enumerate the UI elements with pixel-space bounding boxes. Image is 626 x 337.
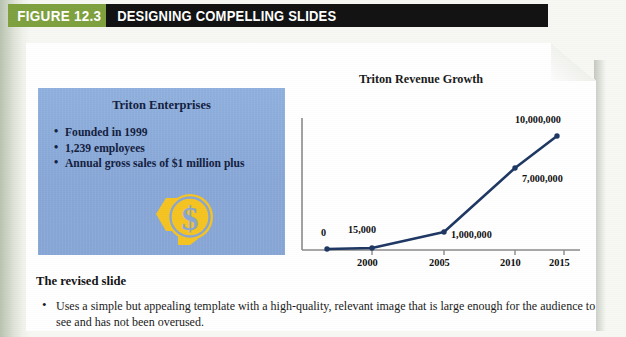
data-label-15000: 15,000	[348, 224, 376, 235]
chart-plot-area	[296, 72, 584, 268]
dollar-coin-icon: $	[152, 181, 224, 253]
presentation-slide: Triton Enterprises Founded in 1999 1,239…	[38, 88, 285, 255]
slide-bullet-list: Founded in 1999 1,239 employees Annual g…	[54, 125, 245, 172]
data-label-0: 0	[321, 227, 326, 238]
caption-heading: The revised slide	[36, 274, 596, 289]
x-tick-label-2015: 2015	[549, 257, 570, 268]
data-point	[369, 245, 374, 250]
caption-bullet-list: Uses a simple but appealing template wit…	[36, 298, 596, 330]
slide-bullet-item: Annual gross sales of $1 million plus	[54, 156, 245, 172]
slide-bullet-item: 1,239 employees	[54, 141, 245, 157]
revenue-line-chart: Triton Revenue Growth 0 15,000 1,000,000…	[296, 72, 584, 268]
figure-title: DESIGNING COMPELLING SLIDES	[106, 4, 365, 27]
figure-header: FIGURE 12.3 DESIGNING COMPELLING SLIDES	[8, 4, 384, 27]
data-point	[441, 229, 446, 234]
figure-number-label: FIGURE 12.3	[8, 4, 110, 27]
x-tick-label-2005: 2005	[429, 257, 450, 268]
data-point	[554, 133, 559, 138]
x-tick-label-2000: 2000	[357, 257, 378, 268]
data-label-1m: 1,000,000	[451, 229, 492, 240]
data-label-10m: 10,000,000	[515, 114, 561, 125]
figure-container: FIGURE 12.3 DESIGNING COMPELLING SLIDES …	[0, 0, 626, 337]
slide-title: Triton Enterprises	[38, 98, 285, 113]
caption-block: The revised slide Uses a simple but appe…	[36, 274, 596, 330]
caption-bullet-item: Uses a simple but appealing template wit…	[36, 298, 596, 330]
data-point	[324, 246, 329, 251]
slide-bullet-item: Founded in 1999	[54, 125, 245, 141]
chart-title: Triton Revenue Growth	[296, 72, 546, 87]
svg-text:$: $	[182, 200, 199, 237]
data-point	[512, 165, 517, 170]
x-tick-label-2010: 2010	[500, 257, 521, 268]
data-label-7m: 7,000,000	[522, 173, 563, 184]
